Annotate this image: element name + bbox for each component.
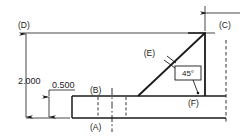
datum-label-e: (E) bbox=[144, 48, 156, 58]
drawing-canvas: 2.000 0.500 45° (D) (C) (E) (B) (F) (A) bbox=[0, 0, 245, 139]
datum-label-f: (F) bbox=[188, 98, 199, 108]
angle-value-text: 45° bbox=[182, 69, 194, 78]
thickness-dimension-text: 0.500 bbox=[52, 80, 75, 90]
datum-label-a: (A) bbox=[90, 122, 102, 132]
height-dimension-text: 2.000 bbox=[18, 76, 41, 86]
engineering-drawing: 2.000 0.500 45° (D) (C) (E) (B) (F) (A) bbox=[0, 0, 245, 139]
datum-label-b: (B) bbox=[90, 85, 102, 95]
datum-label-c: (C) bbox=[219, 20, 231, 30]
datum-label-d: (D) bbox=[18, 20, 30, 30]
